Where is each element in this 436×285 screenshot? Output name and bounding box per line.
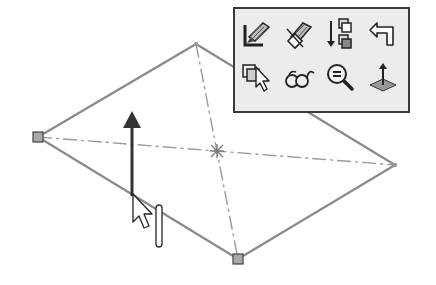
vertex-top-point[interactable] bbox=[194, 42, 198, 46]
edge-bottom-left[interactable] bbox=[38, 137, 238, 259]
select-other-button[interactable] bbox=[239, 59, 275, 95]
edge-left-top[interactable] bbox=[38, 44, 196, 137]
undo-button[interactable] bbox=[365, 15, 401, 51]
vertex-bottom-square[interactable] bbox=[233, 254, 243, 264]
context-toolbar bbox=[233, 7, 410, 113]
reorder-icon bbox=[323, 15, 359, 51]
extrude-direction-arrow[interactable] bbox=[123, 111, 141, 196]
exit-sketch-button[interactable] bbox=[281, 15, 317, 51]
normal-to-button[interactable] bbox=[365, 59, 401, 95]
view-glasses-icon bbox=[281, 59, 317, 95]
reorder-button[interactable] bbox=[323, 15, 359, 51]
show-hide-button[interactable] bbox=[281, 59, 317, 95]
vertex-left-square[interactable] bbox=[33, 132, 43, 142]
zoom-to-selection-icon bbox=[323, 59, 359, 95]
edge-right-bottom[interactable] bbox=[238, 165, 395, 259]
mouse-cursor-icon bbox=[133, 194, 162, 247]
select-other-icon bbox=[239, 59, 275, 95]
zoom-to-selection-button[interactable] bbox=[323, 59, 359, 95]
context-toolbar-row-1 bbox=[235, 11, 408, 55]
context-toolbar-row-2 bbox=[235, 55, 408, 99]
exit-sketch-icon bbox=[281, 15, 317, 51]
edit-sketch-icon bbox=[239, 15, 275, 51]
normal-to-icon bbox=[365, 59, 401, 95]
edit-sketch-button[interactable] bbox=[239, 15, 275, 51]
undo-arrow-icon bbox=[365, 15, 401, 51]
center-point-icon bbox=[210, 144, 224, 158]
vertex-right-point[interactable] bbox=[393, 163, 397, 167]
